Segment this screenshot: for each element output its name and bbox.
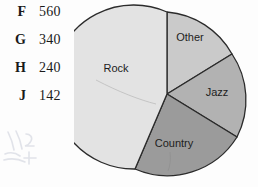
pie-chart: Other Jazz Country Rock [74,0,258,187]
handwriting-scribble-mark [2,128,58,168]
pie-label-rock: Rock [103,62,129,74]
choice-letter: G [0,32,26,48]
choice-letter: F [0,4,26,20]
choice-letter: H [0,60,26,76]
page-canvas: F 560 G 340 H 240 J 142 [0,0,258,187]
pie-label-country: Country [155,137,194,149]
choice-value: 142 [26,88,61,104]
pie-label-jazz: Jazz [206,86,229,98]
choice-value: 340 [26,32,61,48]
choice-value: 240 [26,60,61,76]
choice-value: 560 [26,4,61,20]
choice-letter: J [0,88,26,104]
pie-label-other: Other [176,31,204,43]
